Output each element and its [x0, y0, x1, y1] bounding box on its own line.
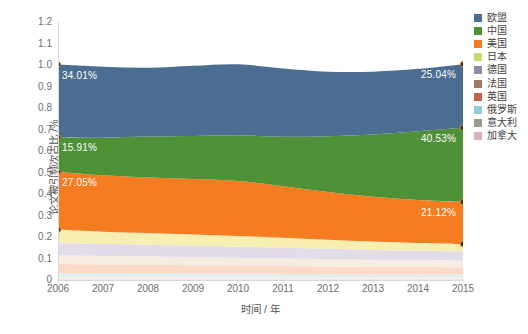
- data-label: 21.12%: [421, 207, 456, 218]
- y-tick-label: 1.2: [6, 17, 52, 27]
- legend-swatch-icon: [474, 93, 482, 101]
- plot-frame: [58, 22, 463, 281]
- y-tick-label: 0.8: [6, 103, 52, 113]
- legend-item-label: 中国: [487, 26, 507, 36]
- legend-swatch-icon: [474, 66, 482, 74]
- legend-item-9[interactable]: 加拿大: [474, 130, 526, 143]
- legend-swatch-icon: [474, 106, 482, 114]
- y-tick-label: 0.2: [6, 232, 52, 242]
- x-axis-ticks: 2006200720082009201020112012201320142015: [58, 283, 463, 299]
- legend-item-label: 日本: [487, 52, 507, 62]
- legend-swatch-icon: [474, 80, 482, 88]
- x-tick-label: 2015: [452, 283, 474, 294]
- x-tick-label: 2008: [137, 283, 159, 294]
- legend: 欧盟中国美国日本德国法国英国俄罗斯意大利加拿大: [474, 11, 526, 143]
- legend-item-7[interactable]: 俄罗斯: [474, 103, 526, 116]
- legend-item-8[interactable]: 意大利: [474, 117, 526, 130]
- legend-item-5[interactable]: 法国: [474, 77, 526, 90]
- x-tick-label: 2007: [92, 283, 114, 294]
- y-tick-label: 1.0: [6, 60, 52, 70]
- legend-item-6[interactable]: 英国: [474, 90, 526, 103]
- data-label: 40.53%: [421, 133, 456, 144]
- x-tick-label: 2012: [317, 283, 339, 294]
- legend-item-label: 加拿大: [487, 131, 517, 141]
- x-tick-label: 2013: [362, 283, 384, 294]
- y-tick-label: 1.1: [6, 39, 52, 49]
- legend-item-label: 欧盟: [487, 13, 507, 23]
- legend-item-label: 法国: [487, 79, 507, 89]
- x-tick-label: 2009: [182, 283, 204, 294]
- x-tick-label: 2006: [47, 283, 69, 294]
- legend-item-3[interactable]: 日本: [474, 51, 526, 64]
- y-tick-label: 0.1: [6, 254, 52, 264]
- y-tick-label: 0.9: [6, 82, 52, 92]
- x-axis-title: 时间 / 年: [58, 301, 463, 316]
- legend-item-2[interactable]: 美国: [474, 37, 526, 50]
- legend-swatch-icon: [474, 132, 482, 140]
- x-tick-label: 2011: [272, 283, 294, 294]
- legend-swatch-icon: [474, 14, 482, 22]
- x-tick-label: 2014: [407, 283, 429, 294]
- data-label: 15.91%: [62, 142, 97, 153]
- y-axis-ticks: 00.10.20.30.40.50.60.70.80.91.01.11.2: [0, 22, 52, 280]
- legend-item-0[interactable]: 欧盟: [474, 11, 526, 24]
- legend-item-label: 德国: [487, 65, 507, 75]
- legend-swatch-icon: [474, 53, 482, 61]
- x-tick-label: 2010: [227, 283, 249, 294]
- data-label: 34.01%: [62, 70, 97, 81]
- legend-item-label: 意大利: [487, 118, 517, 128]
- data-label: 27.05%: [62, 177, 97, 188]
- legend-item-label: 英国: [487, 92, 507, 102]
- legend-item-label: 美国: [487, 39, 507, 49]
- legend-item-4[interactable]: 德国: [474, 64, 526, 77]
- legend-item-1[interactable]: 中国: [474, 24, 526, 37]
- legend-swatch-icon: [474, 40, 482, 48]
- y-tick-label: 0: [6, 275, 52, 285]
- data-label: 25.04%: [421, 69, 456, 80]
- legend-swatch-icon: [474, 27, 482, 35]
- legend-item-label: 俄罗斯: [487, 105, 517, 115]
- legend-swatch-icon: [474, 119, 482, 127]
- chart-root: 00.10.20.30.40.50.60.70.80.91.01.11.2 论文…: [0, 0, 528, 334]
